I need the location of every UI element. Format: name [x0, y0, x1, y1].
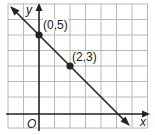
coordinate-plane	[0, 0, 155, 135]
y-axis-label: y	[26, 4, 32, 16]
grid	[8, 4, 148, 128]
point-0-5	[35, 31, 42, 38]
x-axis-label: x	[140, 116, 146, 128]
axes	[6, 3, 150, 131]
point-label-0-5: (0,5)	[43, 19, 68, 31]
origin-label: O	[27, 118, 36, 130]
point-label-2-3: (2,3)	[72, 51, 97, 63]
